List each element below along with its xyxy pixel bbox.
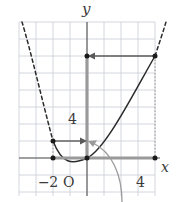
graph-figure: y x −2 O 4 4	[0, 0, 177, 202]
parabola-dashed-left	[22, 22, 53, 141]
segment-length-label: 4	[68, 112, 77, 126]
y-axis-label: y	[82, 2, 90, 17]
point-top-on-y-axis	[85, 54, 90, 59]
point-origin	[85, 156, 90, 161]
top-horizontal-arrow	[88, 53, 155, 60]
axes	[19, 22, 160, 196]
point-right-on-curve	[153, 54, 158, 59]
point-left-on-curve	[51, 139, 56, 144]
point-right-on-axis	[153, 156, 158, 161]
parabola-dashed-right	[155, 22, 166, 56]
origin-label: O	[63, 175, 74, 189]
x-tick-label-minus-2: −2	[38, 175, 58, 189]
x-axis-label: x	[161, 160, 169, 174]
x-tick-label-4: 4	[136, 175, 145, 189]
curved-pointer-arrow	[88, 140, 122, 202]
coordinate-plane-svg	[0, 0, 177, 202]
point-left-on-axis	[51, 156, 56, 161]
